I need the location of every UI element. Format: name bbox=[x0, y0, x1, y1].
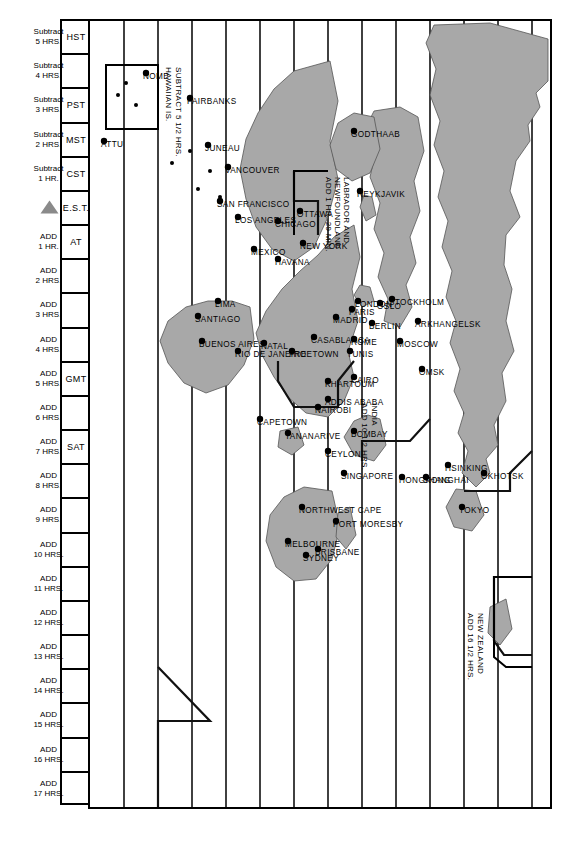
city-label: NATAL bbox=[261, 342, 288, 351]
city-label: SYDNEY bbox=[303, 554, 339, 563]
hawaii-line1: HAWAIIAN IS. bbox=[164, 67, 173, 122]
nz-line1: NEW ZEALAND bbox=[476, 613, 485, 674]
map-stage: NOMEATTUFAIRBANKSJUNEAUVANCOUVERSAN FRAN… bbox=[12, 13, 574, 833]
zone-offset-bottom: 7 HRS. bbox=[31, 446, 65, 456]
zone-offset-bottom: 15 HRS. bbox=[31, 719, 65, 729]
zone-cell-p11 bbox=[62, 567, 90, 601]
zone-cell-p6 bbox=[62, 396, 90, 430]
lab-line1: LABRADOR AND bbox=[342, 177, 351, 243]
zone-offset-bottom: 16 HRS. bbox=[31, 753, 65, 763]
zone-offset: ADD5 HRS. bbox=[31, 368, 65, 387]
zone-offset-bottom: 5 HRS. bbox=[31, 377, 65, 387]
zone-offset-top: ADD bbox=[31, 470, 65, 480]
zone-offset-top: ADD bbox=[31, 436, 65, 446]
zone-offset-bottom: 17 HRS. bbox=[31, 787, 65, 797]
zone-offset-top: ADD bbox=[31, 778, 65, 788]
zone-offset: Subtract2 HRS. bbox=[31, 129, 65, 148]
city-label: SINGAPORE bbox=[341, 472, 393, 481]
city-label: MELBOURNE bbox=[285, 540, 341, 549]
zone-abbrev-label: GMT bbox=[65, 373, 86, 383]
city-label: BERLIN bbox=[369, 322, 401, 331]
zone-cell-hst: HST bbox=[62, 21, 90, 55]
zone-offset: ADD17 HRS. bbox=[31, 778, 65, 797]
city-label: SAN FRANCISCO bbox=[217, 200, 290, 209]
city-label: HAVANA bbox=[275, 258, 310, 267]
zone-offset-bottom: 14 HRS. bbox=[31, 685, 65, 695]
city-label: CEYLON bbox=[325, 450, 361, 459]
zone-cell-est: E.S.T. bbox=[62, 191, 90, 225]
zone-offset: ADD7 HRS. bbox=[31, 436, 65, 455]
world-map-frame: NOMEATTUFAIRBANKSJUNEAUVANCOUVERSAN FRAN… bbox=[88, 19, 552, 809]
zone-offset-top: ADD bbox=[31, 231, 65, 241]
city-label: STOCKHOLM bbox=[389, 298, 444, 307]
zone-cell-p17 bbox=[62, 772, 90, 806]
city-label: ARKHANGELSK bbox=[415, 320, 481, 329]
zone-abbrev-label: HST bbox=[66, 32, 85, 42]
city-label: FREETOWN bbox=[289, 350, 339, 359]
zone-offset: ADD4 HRS. bbox=[31, 334, 65, 353]
zone-offset-bottom: 6 HRS. bbox=[31, 411, 65, 421]
zone-offset: ADD14 HRS. bbox=[31, 675, 65, 694]
zone-offset-top: ADD bbox=[31, 505, 65, 515]
zone-cell-p4 bbox=[62, 328, 90, 362]
zone-offset: ADD13 HRS. bbox=[31, 641, 65, 660]
lab-line2: NEWFOUNDLAND bbox=[333, 177, 342, 249]
zone-offset-bottom: 12 HRS. bbox=[31, 617, 65, 627]
city-label: TANANARIVE bbox=[285, 432, 341, 441]
zone-offset-top: Subtract bbox=[31, 26, 65, 36]
city-label: TOKYO bbox=[459, 506, 490, 515]
zone-offset-bottom: 10 HRS. bbox=[31, 548, 65, 558]
city-label: MEXICO bbox=[251, 248, 286, 257]
zone-abbrev-label: SAT bbox=[66, 442, 84, 452]
zone-offset: ADD6 HRS. bbox=[31, 402, 65, 421]
zone-cell-p16 bbox=[62, 738, 90, 772]
zone-offset: Subtract3 HRS. bbox=[31, 94, 65, 113]
hawaii-line2: SUBTRACT 5 1/2 HRS. bbox=[174, 67, 183, 157]
time-zone-map-page: NOMEATTUFAIRBANKSJUNEAUVANCOUVERSAN FRAN… bbox=[0, 0, 585, 845]
annotation-hawaii: HAWAIIAN IS. SUBTRACT 5 1/2 HRS. bbox=[106, 65, 222, 199]
city-label: NAIROBI bbox=[315, 406, 351, 415]
zone-offset-top: ADD bbox=[31, 299, 65, 309]
zone-offset: ADD9 HRS. bbox=[31, 505, 65, 524]
city-label: ROME bbox=[351, 338, 377, 347]
zone-offset-top: ADD bbox=[31, 607, 65, 617]
zone-offset: ADD10 HRS. bbox=[31, 539, 65, 558]
zone-offset-top: ADD bbox=[31, 539, 65, 549]
zone-offset-top: ADD bbox=[31, 641, 65, 651]
zone-abbrev-label: AT bbox=[70, 237, 82, 247]
city-label: CAPETOWN bbox=[257, 418, 307, 427]
zone-offset-top: ADD bbox=[31, 573, 65, 583]
lab-line3: ADD 1 HR. 29 MIN. bbox=[324, 177, 333, 252]
city-label: CHICAGO bbox=[275, 220, 316, 229]
zone-cell-pst: PST bbox=[62, 89, 90, 123]
zone-offset-bottom: 13 HRS. bbox=[31, 651, 65, 661]
zone-cell-p14 bbox=[62, 670, 90, 704]
zone-offset-bottom: 9 HRS. bbox=[31, 514, 65, 524]
est-pointer-marker bbox=[40, 200, 58, 213]
zone-offset-top: ADD bbox=[31, 368, 65, 378]
zone-offset: ADD1 HR. bbox=[31, 231, 65, 250]
zone-offset-bottom: 11 HRS. bbox=[31, 582, 65, 592]
zone-offset: Subtract1 HR. bbox=[31, 163, 65, 182]
india-line1: INDIA bbox=[370, 403, 379, 426]
zone-offset-top: ADD bbox=[31, 334, 65, 344]
zone-offset-bottom: 4 HRS. bbox=[31, 70, 65, 80]
land-namerica bbox=[240, 61, 338, 261]
zone-offset: ADD15 HRS. bbox=[31, 710, 65, 729]
world-map-svg: NOMEATTUFAIRBANKSJUNEAUVANCOUVERSAN FRAN… bbox=[90, 21, 550, 807]
zone-cell-p15 bbox=[62, 704, 90, 738]
zone-offset-bottom: 1 HR. bbox=[31, 172, 65, 182]
india-line2: ADD 10 1/2 HRS. bbox=[360, 403, 369, 470]
city-label: REYKJAVIK bbox=[357, 190, 405, 199]
zone-cell-z-10 bbox=[62, 55, 90, 89]
city-label: VANCOUVER bbox=[225, 166, 280, 175]
zone-offset-top: Subtract bbox=[31, 129, 65, 139]
zone-offset: ADD8 HRS. bbox=[31, 470, 65, 489]
zone-offset: Subtract4 HRS. bbox=[31, 60, 65, 79]
zone-cell-mst: MST bbox=[62, 123, 90, 157]
zone-cell-p3 bbox=[62, 294, 90, 328]
zone-offset-top: ADD bbox=[31, 675, 65, 685]
city-label: OMSK bbox=[419, 368, 445, 377]
city-label: GODTHAAB bbox=[351, 130, 400, 139]
zone-cell-p2 bbox=[62, 260, 90, 294]
